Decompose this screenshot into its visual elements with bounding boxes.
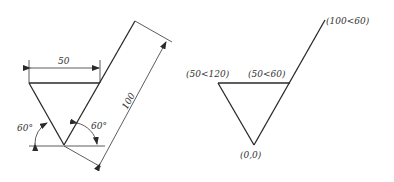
triangle-left-edge (29, 83, 64, 145)
left-figure: 50 100 60° 60° (17, 21, 172, 167)
extension-line-top (135, 21, 172, 42)
point-label-origin: (0,0) (240, 150, 262, 160)
angle-label-left: 60° (17, 123, 33, 133)
point-label-end: (100<60) (326, 16, 370, 26)
right-figure: (50<120) (50<60) (100<60) (0,0) (186, 16, 370, 160)
point-label-left: (50<120) (186, 69, 230, 79)
angle-label-right: 60° (91, 121, 107, 131)
drawing-canvas: 50 100 60° 60° (50<120) (50<60) (100<60)… (0, 0, 394, 182)
length-dimension-line (100, 42, 166, 164)
extension-line-bottom (64, 146, 101, 167)
angle-arc-left (35, 123, 47, 144)
width-dimension-label: 50 (58, 56, 70, 66)
triangle-left-edge (218, 83, 254, 145)
point-label-right: (50<60) (248, 69, 286, 79)
